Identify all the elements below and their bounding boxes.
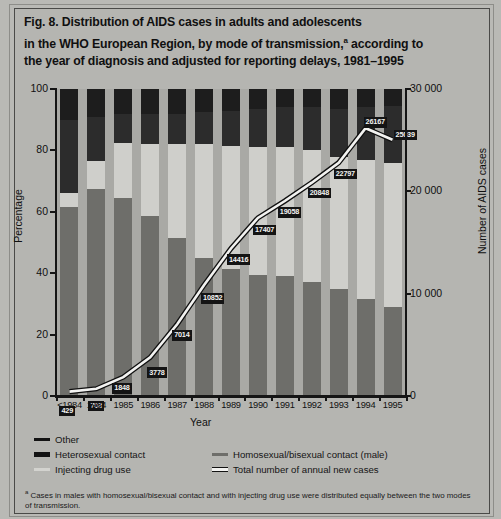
x-axis-tick-label: 1995 (376, 400, 410, 410)
total-cases-line-overlay (56, 89, 406, 396)
y-axis-left-tick (50, 334, 55, 336)
total-cases-value-label: 1848 (112, 383, 131, 394)
legend-item-label: Injecting drug use (55, 464, 131, 475)
legend-item: Homosexual/bisexual contact (male) (212, 449, 388, 460)
x-axis-spine (55, 395, 407, 398)
y-axis-left-tick-label: 40 (8, 266, 48, 278)
y-axis-left-tick-label: 80 (8, 143, 48, 155)
legend-item-label: Heterosexual contact (55, 449, 145, 460)
total-cases-value-label: 19058 (278, 207, 301, 218)
legend-item: Total number of annual new cases (212, 464, 379, 475)
chart-plot-area: 4297031848377870141085214416174071905820… (56, 89, 406, 396)
figure-title-line-2: in the WHO European Region, by mode of t… (24, 32, 464, 54)
legend-item-label: Other (55, 434, 79, 445)
x-axis-title: Year (190, 416, 211, 428)
y-axis-right-tick-label: 10 000 (410, 287, 465, 299)
figure-title-line-2-text-a: in the WHO European Region, by mode of t… (24, 37, 343, 51)
total-cases-value-label: 14416 (227, 254, 250, 265)
legend-item-label: Homosexual/bisexual contact (male) (233, 449, 388, 460)
y-axis-right-spine (405, 88, 407, 397)
light-gray-line-marker (34, 468, 50, 471)
total-cases-value-label: 3778 (147, 367, 166, 378)
y-axis-left-tick-label: 100 (8, 82, 48, 94)
legend-item: Injecting drug use (34, 464, 131, 475)
total-cases-value-label: 17407 (253, 225, 276, 236)
y-axis-right-tick-label: 30 000 (410, 82, 465, 94)
y-axis-left-tick-label: 20 (8, 328, 48, 340)
y-axis-left-tick (50, 211, 55, 213)
y-axis-left-tick (50, 149, 55, 151)
figure-page: Fig. 8. Distribution of AIDS cases in ad… (0, 0, 501, 519)
figure-title-line-3: the year of diagnosis and adjusted for r… (24, 53, 464, 71)
y-axis-left-tick (50, 395, 55, 397)
y-axis-right-title: Number of AIDS cases (476, 131, 488, 271)
figure-title-line-1: Fig. 8. Distribution of AIDS cases in ad… (24, 14, 464, 32)
total-cases-value-label: 22797 (334, 169, 357, 180)
legend-item: Heterosexual contact (34, 449, 145, 460)
mid-gray-line-marker (212, 453, 228, 457)
figure-footnote: a Cases in males with homosexual/bisexua… (25, 487, 473, 512)
footnote-text: Cases in males with homosexual/bisexual … (25, 491, 470, 511)
thick-black-line-marker (34, 452, 50, 457)
legend-item: Other (34, 434, 79, 445)
y-axis-left-tick-label: 60 (8, 205, 48, 217)
total-cases-value-label: 7014 (172, 330, 191, 341)
legend-item-label: Total number of annual new cases (233, 464, 379, 475)
y-axis-right-tick-label: 20 000 (410, 184, 465, 196)
total-cases-value-label: 26167 (364, 117, 387, 128)
total-cases-value-label: 20848 (308, 188, 331, 199)
total-cases-value-label: 10852 (201, 293, 224, 304)
white-outlined-line-marker (212, 467, 228, 472)
y-axis-left-spine (55, 88, 57, 397)
figure-title: Fig. 8. Distribution of AIDS cases in ad… (24, 14, 464, 71)
thin-black-line-marker (34, 438, 50, 441)
y-axis-left-tick (50, 88, 55, 90)
y-axis-left-tick-label: 0 (8, 389, 48, 401)
y-axis-left-tick (50, 272, 55, 274)
y-axis-right-tick-label: 0 (410, 389, 465, 401)
figure-title-line-2-text-b: according to (348, 37, 423, 51)
